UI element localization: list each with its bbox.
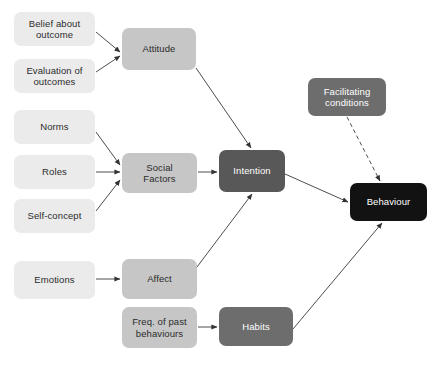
- edge-habits-behaviour: [293, 223, 382, 329]
- node-label-selfconcept: Self-concept: [27, 210, 81, 221]
- node-label-norms: Norms: [40, 121, 68, 132]
- node-label-attitude: Attitude: [142, 43, 175, 54]
- node-social: Social Factors: [122, 153, 197, 193]
- node-roles: Roles: [14, 155, 95, 189]
- node-label-behaviour: Behaviour: [367, 196, 411, 207]
- node-label-belief: Belief about outcome: [29, 18, 80, 40]
- node-label-evaluation: Evaluation of outcomes: [26, 65, 82, 87]
- edge-attitude-intention: [196, 68, 251, 148]
- node-evaluation: Evaluation of outcomes: [14, 59, 95, 93]
- node-facilitate: Facilitating conditions: [308, 78, 386, 116]
- node-label-roles: Roles: [42, 166, 67, 177]
- edge-norms-social: [96, 132, 120, 165]
- node-attitude: Attitude: [122, 28, 196, 70]
- edge-intention-behaviour: [285, 174, 348, 202]
- node-selfconcept: Self-concept: [14, 199, 95, 233]
- edge-selfconcept-social: [96, 180, 120, 211]
- node-freqpast: Freq. of past behaviours: [122, 307, 197, 348]
- node-label-intention: Intention: [233, 165, 270, 176]
- diagram-canvas: Belief about outcomeEvaluation of outcom…: [0, 0, 441, 366]
- node-label-social: Social Factors: [143, 162, 175, 184]
- node-belief: Belief about outcome: [14, 12, 95, 46]
- node-emotions: Emotions: [14, 261, 95, 299]
- node-label-facilitate: Facilitating conditions: [324, 86, 371, 108]
- edge-facilitate-behaviour: [347, 117, 380, 181]
- edge-belief-attitude: [96, 32, 120, 52]
- node-norms: Norms: [14, 110, 95, 144]
- node-behaviour: Behaviour: [350, 183, 427, 221]
- node-intention: Intention: [219, 150, 285, 192]
- node-label-affect: Affect: [147, 273, 172, 284]
- node-label-habits: Habits: [242, 321, 270, 332]
- node-label-emotions: Emotions: [34, 274, 74, 285]
- edge-affect-intention: [197, 194, 252, 267]
- edge-evaluation-attitude: [96, 56, 120, 72]
- node-affect: Affect: [122, 259, 197, 299]
- node-habits: Habits: [219, 307, 293, 346]
- node-label-freqpast: Freq. of past behaviours: [132, 316, 187, 338]
